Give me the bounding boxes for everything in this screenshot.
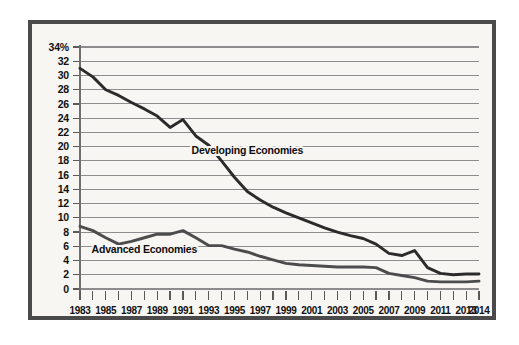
x-tick-label: 1999 (275, 305, 297, 316)
x-tick-label: 2014 (468, 305, 490, 316)
x-tick-label: 1991 (172, 305, 194, 316)
y-tick-label: 6 (63, 240, 69, 252)
x-tick-label: 1989 (147, 305, 169, 316)
x-tick-label: 2003 (327, 305, 349, 316)
x-tick-label: 2005 (353, 305, 375, 316)
y-tick-label: 10 (58, 211, 70, 223)
y-tick-label: 0 (63, 283, 69, 295)
x-tick-label: 1983 (69, 305, 91, 316)
y-tick-label: 18 (58, 154, 70, 166)
chart-figure: 34%32302826242220181614121086420 1983198… (28, 20, 496, 320)
y-tick-label: 26 (58, 98, 70, 110)
x-tick-label: 1995 (224, 305, 246, 316)
y-tick-label: 32 (58, 55, 70, 67)
x-axis: 1983198519871989199119931995199719992001… (69, 291, 490, 316)
y-tick-label: 12 (58, 197, 70, 209)
x-tick-label: 1987 (121, 305, 143, 316)
y-axis: 34%32302826242220181614121086420 (49, 41, 80, 299)
y-tick-label: 34% (49, 41, 70, 53)
x-tick-label: 1985 (95, 305, 117, 316)
plot-area: 34%32302826242220181614121086420 1983198… (32, 24, 492, 316)
y-tick-label: 8 (63, 226, 69, 238)
y-tick-label: 30 (58, 69, 70, 81)
series-label-developing-economies: Developing Economies (192, 144, 304, 156)
x-tick-label: 1993 (198, 305, 220, 316)
y-tick-label: 2 (63, 268, 69, 280)
x-tick-label: 1997 (250, 305, 272, 316)
x-tick-label: 2001 (301, 305, 323, 316)
x-tick-label: 2007 (378, 305, 400, 316)
y-tick-label: 4 (63, 254, 69, 266)
line-chart: 34%32302826242220181614121086420 1983198… (32, 24, 492, 316)
x-tick-label: 2011 (430, 305, 451, 316)
series-label-advanced-economies: Advanced Economies (92, 243, 198, 255)
y-tick-label: 20 (58, 140, 70, 152)
y-tick-label: 14 (58, 183, 70, 195)
y-tick-label: 28 (58, 83, 70, 95)
y-tick-label: 16 (58, 169, 70, 181)
x-tick-label: 2009 (404, 305, 426, 316)
y-tick-label: 22 (58, 126, 70, 138)
y-tick-label: 24 (58, 112, 70, 124)
